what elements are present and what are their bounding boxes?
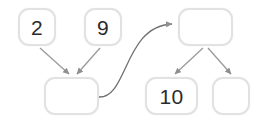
node-9-label: 9 bbox=[97, 17, 109, 38]
edge-9-to-left-empty bbox=[77, 48, 100, 74]
edge-top-right-to-10 bbox=[175, 48, 203, 74]
edge-top-right-to-bottom-right bbox=[208, 48, 231, 74]
node-9[interactable]: 9 bbox=[84, 8, 122, 46]
node-10[interactable]: 10 bbox=[145, 77, 198, 115]
node-2-label: 2 bbox=[31, 17, 43, 38]
node-top-right[interactable] bbox=[178, 8, 233, 46]
node-10-label: 10 bbox=[160, 86, 184, 107]
edge-2-to-left-empty bbox=[40, 48, 69, 74]
node-2[interactable]: 2 bbox=[18, 8, 56, 46]
node-left-empty[interactable] bbox=[44, 77, 99, 115]
node-bottom-right[interactable] bbox=[212, 77, 250, 115]
diagram-canvas: 2 9 10 bbox=[0, 0, 270, 133]
